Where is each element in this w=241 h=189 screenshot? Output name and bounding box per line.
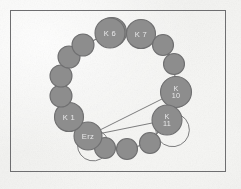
ring-network-diagram: K 7K10K11ErzK 1K 6 [0,0,241,189]
node-unlabelled[interactable] [164,54,185,75]
node-circle[interactable] [164,54,185,75]
node-label: K 1 [63,113,75,122]
node-circle[interactable] [72,34,94,56]
node-label: K 6 [104,29,116,38]
node-circle[interactable] [117,139,138,160]
node-unlabelled[interactable] [117,139,138,160]
node-circle[interactable] [50,85,72,107]
node-k-11[interactable]: K11 [152,105,182,135]
node-k-6[interactable]: K 6 [95,18,125,48]
screenshot-canvas: K 7K10K11ErzK 1K 6 [0,0,241,189]
node-k-7[interactable]: K 7 [127,20,156,49]
node-unlabelled[interactable] [140,133,161,154]
node-unlabelled[interactable] [153,35,174,56]
node-unlabelled[interactable] [50,85,72,107]
node-circle[interactable] [153,35,174,56]
node-unlabelled[interactable] [72,34,94,56]
chord-edge [100,123,154,134]
node-k-10[interactable]: K10 [161,77,192,108]
node-label: 11 [163,119,171,128]
node-circle[interactable] [140,133,161,154]
nodes-layer: K 7K10K11ErzK 1K 6 [50,18,192,160]
node-label: Erz [82,132,94,141]
node-label: K 7 [135,30,147,39]
node-label: 10 [172,91,181,100]
